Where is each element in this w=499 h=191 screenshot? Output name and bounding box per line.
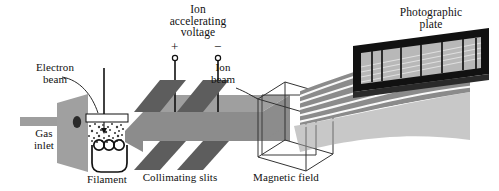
label-gas-inlet: Gas inlet bbox=[15, 128, 73, 151]
electrode-minus-sign: − bbox=[214, 40, 221, 53]
filament-coil bbox=[92, 140, 127, 172]
label-ion-accelerating-voltage: Ion accelerating voltage bbox=[142, 4, 254, 39]
label-ion-beam: Ion beam bbox=[199, 62, 247, 85]
label-photographic-plate: Photographic plate bbox=[378, 7, 484, 30]
ionization-plate-aperture bbox=[73, 116, 81, 128]
electron-source-box bbox=[86, 114, 128, 122]
electrode-plus-sign: + bbox=[171, 40, 178, 53]
label-electron-beam: Electron beam bbox=[18, 62, 92, 85]
label-magnetic-field: Magnetic field bbox=[236, 172, 336, 184]
mass-spectrometer-diagram: Gas inlet Electron beam Filament Ion acc… bbox=[0, 0, 499, 191]
label-collimating-slits: Collimating slits bbox=[125, 172, 235, 184]
